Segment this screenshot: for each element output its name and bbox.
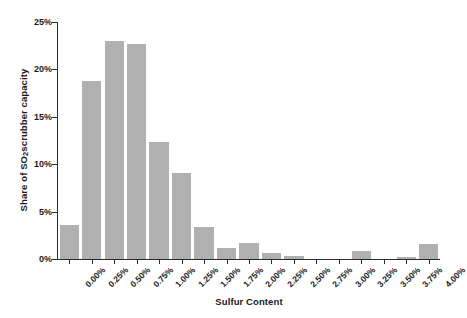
x-axis-tick-label: 3.25% bbox=[375, 265, 399, 289]
bar bbox=[105, 41, 124, 259]
bar-group bbox=[58, 22, 80, 259]
y-axis-tick-label: 25% bbox=[34, 17, 52, 27]
bar bbox=[284, 256, 303, 259]
bar bbox=[239, 243, 258, 259]
x-axis-tick-label: 0.50% bbox=[128, 265, 152, 289]
bar-group bbox=[125, 22, 147, 259]
x-axis-tick-label: 3.75% bbox=[420, 265, 444, 289]
x-axis-title: Sulfur Content bbox=[58, 296, 440, 307]
bar-group bbox=[373, 22, 395, 259]
x-axis-tick-label: 2.75% bbox=[330, 265, 354, 289]
bar-group bbox=[215, 22, 237, 259]
y-axis-tick bbox=[52, 164, 57, 165]
bar bbox=[262, 253, 281, 259]
x-axis-tick bbox=[227, 260, 228, 264]
x-axis-tick-label: 2.25% bbox=[286, 265, 310, 289]
bar-group bbox=[260, 22, 282, 259]
x-axis-tick bbox=[316, 260, 317, 264]
bar bbox=[127, 44, 146, 259]
bar bbox=[419, 244, 438, 259]
x-axis-tick-label: 1.25% bbox=[196, 265, 220, 289]
bar bbox=[60, 225, 79, 259]
bar bbox=[194, 227, 213, 259]
x-axis-tick bbox=[159, 260, 160, 264]
x-axis-tick-label: 2.00% bbox=[263, 265, 287, 289]
bar bbox=[82, 81, 101, 259]
bar-group bbox=[170, 22, 192, 259]
y-axis-tick-label: 5% bbox=[39, 207, 52, 217]
bar bbox=[352, 251, 371, 259]
x-axis-tick-label: 1.50% bbox=[218, 265, 242, 289]
x-axis-tick bbox=[339, 260, 340, 264]
x-axis-tick-label: 2.50% bbox=[308, 265, 332, 289]
x-axis-tick bbox=[204, 260, 205, 264]
y-axis-tick-label: 20% bbox=[34, 64, 52, 74]
x-axis-tick bbox=[271, 260, 272, 264]
bar-group bbox=[193, 22, 215, 259]
bar-group bbox=[350, 22, 372, 259]
plot-area bbox=[58, 22, 440, 259]
y-axis-tick bbox=[52, 22, 57, 23]
x-axis-tick-label: 3.00% bbox=[353, 265, 377, 289]
bar bbox=[217, 248, 236, 259]
bar bbox=[149, 142, 168, 259]
y-axis-tick-label: 0% bbox=[39, 254, 52, 264]
x-axis-tick bbox=[137, 260, 138, 264]
bar bbox=[172, 173, 191, 259]
x-axis-tick bbox=[406, 260, 407, 264]
x-axis-tick-label: 1.00% bbox=[173, 265, 197, 289]
y-axis-tick bbox=[52, 212, 57, 213]
y-axis-tick-label: 15% bbox=[34, 112, 52, 122]
bar bbox=[397, 257, 416, 259]
x-axis-tick-label: 4.00% bbox=[443, 265, 467, 289]
y-axis-tick-label: 10% bbox=[34, 159, 52, 169]
x-axis-tick bbox=[69, 260, 70, 264]
x-axis-tick bbox=[361, 260, 362, 264]
y-axis-tick bbox=[52, 259, 57, 260]
x-axis-tick-label: 0.25% bbox=[106, 265, 130, 289]
x-axis-tick bbox=[182, 260, 183, 264]
y-axis-tick bbox=[52, 69, 57, 70]
bar-group bbox=[395, 22, 417, 259]
bar-group bbox=[328, 22, 350, 259]
bar-group bbox=[283, 22, 305, 259]
x-axis-tick-label: 0.75% bbox=[151, 265, 175, 289]
x-axis-tick bbox=[384, 260, 385, 264]
bar-group bbox=[238, 22, 260, 259]
x-axis-tick-label: 0.00% bbox=[83, 265, 107, 289]
bar-group bbox=[418, 22, 440, 259]
bar-group bbox=[80, 22, 102, 259]
x-axis-tick bbox=[114, 260, 115, 264]
x-axis-tick-label: 3.50% bbox=[398, 265, 422, 289]
x-axis-tick bbox=[294, 260, 295, 264]
y-axis-tick bbox=[52, 117, 57, 118]
x-axis-tick-label: 1.75% bbox=[241, 265, 265, 289]
x-axis-tick bbox=[92, 260, 93, 264]
bar-group bbox=[148, 22, 170, 259]
bar-group bbox=[103, 22, 125, 259]
x-axis-tick bbox=[249, 260, 250, 264]
x-axis-tick bbox=[429, 260, 430, 264]
bar-group bbox=[305, 22, 327, 259]
y-axis-tick-labels: 0%5%10%15%20%25% bbox=[22, 22, 52, 259]
